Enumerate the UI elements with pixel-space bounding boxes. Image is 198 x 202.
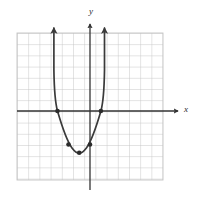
- coordinate-plane-svg: [0, 0, 198, 202]
- point-right-mid: [88, 142, 93, 147]
- point-left-x-intercept: [55, 109, 60, 114]
- point-vertex: [77, 151, 82, 156]
- parabola-graph-figure: y x: [0, 0, 198, 202]
- x-axis-label: x: [184, 105, 188, 114]
- y-axis-label: y: [89, 7, 93, 16]
- point-left-mid: [66, 142, 71, 147]
- point-right-x-intercept: [99, 109, 104, 114]
